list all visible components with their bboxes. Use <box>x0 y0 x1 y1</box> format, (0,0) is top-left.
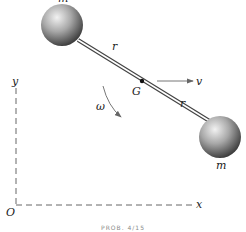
angular-velocity-arrow-icon <box>103 86 121 117</box>
rod-length-label-upper: r <box>112 41 117 52</box>
rod-length-label-lower: r <box>180 98 185 109</box>
mass-sphere-top <box>41 4 83 46</box>
mass-sphere-bottom <box>199 116 241 158</box>
x-axis-label: x <box>196 199 202 210</box>
angular-velocity-label: ω <box>96 101 105 112</box>
mass-label-bottom: m <box>216 160 226 171</box>
figure-caption: PROB. 4/15 <box>0 224 246 231</box>
center-of-mass-label: G <box>132 86 141 97</box>
diagram-canvas <box>0 0 246 232</box>
mass-label-top: m <box>58 0 68 4</box>
velocity-label: v <box>196 76 202 87</box>
origin-label: O <box>6 207 15 218</box>
center-of-mass-dot <box>140 79 144 83</box>
y-axis-label: y <box>12 76 18 87</box>
